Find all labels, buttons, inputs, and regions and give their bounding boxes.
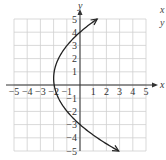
axes: xy (6, 0, 165, 151)
svg-text:−3: −3 (35, 86, 46, 97)
svg-text:5: 5 (144, 86, 149, 97)
parabola-graph: xy −5−4−3−2−11234554321−1−2−3−4−5 (0, 0, 166, 160)
svg-text:−4: −4 (66, 132, 77, 143)
svg-text:y: y (77, 0, 83, 11)
svg-text:1: 1 (91, 86, 96, 97)
svg-text:2: 2 (104, 86, 109, 97)
svg-text:4: 4 (130, 86, 135, 97)
svg-text:3: 3 (117, 86, 122, 97)
side-label-y: y (160, 17, 164, 28)
svg-text:3: 3 (72, 40, 77, 51)
svg-text:−1: −1 (66, 93, 77, 104)
svg-text:x: x (159, 79, 165, 90)
svg-text:−5: −5 (66, 146, 77, 157)
svg-text:5: 5 (72, 14, 77, 25)
svg-text:−2: −2 (66, 106, 77, 117)
svg-text:−5: −5 (9, 86, 20, 97)
svg-text:1: 1 (72, 66, 77, 77)
side-label-x: x (160, 4, 164, 15)
svg-text:−4: −4 (22, 86, 33, 97)
svg-text:2: 2 (72, 53, 77, 64)
